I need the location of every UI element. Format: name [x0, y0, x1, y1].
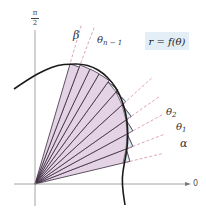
label-theta-n-minus-1: θn − 1 — [97, 35, 122, 47]
dashed-ray — [128, 97, 159, 119]
subscript: 2 — [172, 111, 176, 119]
dashed-ray — [128, 135, 163, 149]
dashed-ray — [81, 28, 94, 64]
subscript: 1 — [182, 126, 186, 134]
circular-sectors — [35, 64, 133, 184]
pi-numerator: π — [33, 9, 38, 17]
label-theta-2: θ2 — [166, 107, 177, 119]
label-alpha: α — [180, 138, 187, 149]
pi-denominator: 2 — [33, 19, 37, 27]
dashed-ray — [125, 154, 162, 163]
axis-arrow-icon — [185, 182, 191, 186]
dashed-ray — [129, 115, 162, 133]
dashed-ray — [123, 78, 151, 104]
label-beta: β — [73, 30, 79, 41]
label-theta-1: θ1 — [176, 122, 187, 134]
equation-label: r = f(θ) — [145, 32, 189, 50]
axis-label-pi-over-2: π 2 — [30, 10, 40, 27]
subscript: n − 1 — [103, 39, 122, 47]
axis-label-zero: 0 — [193, 179, 198, 188]
